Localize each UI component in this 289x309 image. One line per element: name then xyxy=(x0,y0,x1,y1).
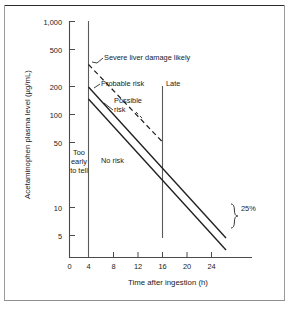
x-axis-title: Time after ingestion (h) xyxy=(78,278,258,287)
y-axis-ticks xyxy=(70,22,76,236)
x-axis-ticks xyxy=(70,252,212,258)
nomogram-figure: 1,000 500 200 100 50 10 5 0 4 8 12 16 20… xyxy=(0,0,289,309)
annotation-too-early-line3: to tell xyxy=(69,166,89,175)
annotation-possible-risk-line2: risk xyxy=(114,106,126,115)
y-tick-label-50: 50 xyxy=(28,139,62,148)
y-tick-label-100: 100 xyxy=(28,111,62,120)
y-tick-label-1000: 1,000 xyxy=(28,18,62,27)
x-tick-label-20: 20 xyxy=(179,262,195,271)
x-tick-label-24: 24 xyxy=(204,262,220,271)
y-tick-label-5: 5 xyxy=(28,232,62,241)
brace-25-percent xyxy=(231,204,238,228)
x-tick-label-8: 8 xyxy=(106,262,122,271)
y-tick-label-200: 200 xyxy=(28,83,62,92)
y-axis-title: Acetaminophen plasma level (µg/mL) xyxy=(23,35,32,235)
leader-probable-risk xyxy=(94,84,100,88)
x-tick-label-12: 12 xyxy=(130,262,146,271)
y-tick-label-10: 10 xyxy=(28,204,62,213)
possible-risk-line xyxy=(89,99,227,250)
annotation-too-early-line1: Too xyxy=(70,148,88,157)
annotation-too-early-line2: early xyxy=(70,157,88,166)
annotation-no-risk: No risk xyxy=(101,157,124,166)
x-tick-label-4: 4 xyxy=(81,262,97,271)
annotation-severe-liver-damage-likely: Severe liver damage likely xyxy=(104,54,190,63)
leader-severe-liver-damage xyxy=(92,58,103,63)
y-tick-label-500: 500 xyxy=(28,46,62,55)
annotation-probable-risk: Probable risk xyxy=(101,80,144,89)
x-tick-label-16: 16 xyxy=(155,262,171,271)
annotation-25-percent: 25% xyxy=(241,205,256,214)
x-tick-label-0: 0 xyxy=(62,262,78,271)
annotation-late: Late xyxy=(166,80,180,89)
